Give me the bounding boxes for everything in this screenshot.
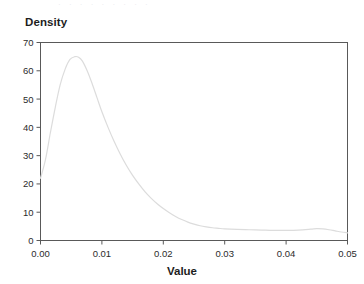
x-tick-label: 0.00 — [31, 248, 50, 259]
plot-frame — [41, 43, 348, 241]
y-tick-label: 40 — [23, 122, 34, 133]
x-tick-label: 0.04 — [277, 248, 296, 259]
chart-figure: · · · · · · · · · Density 01020304050607… — [0, 0, 364, 284]
x-tick-label: 0.01 — [93, 248, 112, 259]
y-tick-label: 30 — [23, 150, 34, 161]
y-tick-label: 20 — [23, 178, 34, 189]
y-tick-label: 50 — [23, 94, 34, 105]
y-tick-label: 10 — [23, 207, 34, 218]
y-tick-label: 70 — [23, 37, 34, 48]
x-tick-label: 0.03 — [215, 248, 234, 259]
x-tick-label: 0.02 — [154, 248, 173, 259]
density-plot: 0102030405060700.000.010.020.030.040.05 — [0, 0, 364, 284]
y-tick-label: 60 — [23, 65, 34, 76]
x-tick-label: 0.05 — [338, 248, 357, 259]
x-axis-title: Value — [0, 265, 364, 277]
y-tick-label: 0 — [28, 235, 33, 246]
density-curve — [41, 56, 348, 232]
